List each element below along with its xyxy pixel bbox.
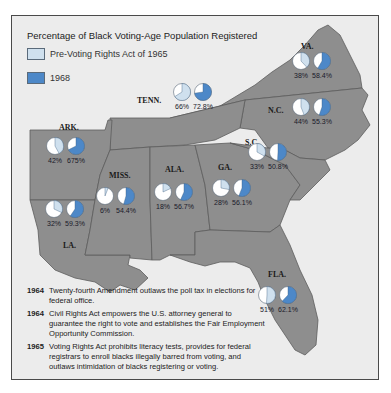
- pie-1968-label: 62.1%: [278, 306, 298, 313]
- events-timeline: 1964 Twenty-fourth Amendment outlaws the…: [27, 286, 267, 375]
- pie-pre-1965-label: 44%: [294, 118, 308, 125]
- event-item: 1964 Civil Rights Act empowers the U.S. …: [27, 309, 267, 339]
- pie-1968-label: 55.3%: [312, 118, 332, 125]
- event-year: 1964: [27, 286, 49, 306]
- event-item: 1964 Twenty-fourth Amendment outlaws the…: [27, 286, 267, 306]
- pie-1968-label: 58.4%: [312, 72, 332, 79]
- event-item: 1965 Voting Rights Act prohibits literac…: [27, 342, 267, 372]
- label-miss: MISS.: [109, 171, 131, 180]
- label-ga: GA.: [218, 163, 232, 172]
- pie-1968-label: 675%: [67, 157, 85, 164]
- pie-1968-label: 56.1%: [232, 199, 252, 206]
- label-la: LA.: [63, 241, 76, 250]
- pie-1968-label: 50.8%: [268, 163, 288, 170]
- label-tenn: TENN.: [137, 96, 161, 105]
- event-text: Twenty-fourth Amendment outlaws the poll…: [49, 286, 267, 306]
- pie-pre-1965-label: 28%: [214, 199, 228, 206]
- event-year: 1965: [27, 342, 49, 372]
- label-nc: N.C.: [268, 106, 284, 115]
- pie-pre-1965-label: 32%: [47, 220, 61, 227]
- label-fla: FLA.: [268, 270, 286, 279]
- pie-pre-1965-label: 42%: [48, 157, 62, 164]
- pie-1968-label: 56.7%: [174, 203, 194, 210]
- pie-pre-1965-label: 38%: [294, 72, 308, 79]
- label-ala: ALA.: [165, 165, 184, 174]
- label-va: VA.: [301, 42, 314, 51]
- event-text: Civil Rights Act empowers the U.S. attor…: [49, 309, 267, 339]
- pie-pre-1965-label: 6%: [100, 207, 110, 214]
- pie-1968-label: 54.4%: [116, 207, 136, 214]
- pie-pre-1965-label: 66%: [175, 103, 189, 110]
- pie-1968-label: 59.3%: [65, 220, 85, 227]
- pie-pre-1965-label: 33%: [250, 163, 264, 170]
- event-year: 1964: [27, 309, 49, 339]
- pie-1968-label: 72.8%: [193, 103, 213, 110]
- label-ark: ARK.: [59, 123, 79, 132]
- event-text: Voting Rights Act prohibits literacy tes…: [49, 342, 267, 372]
- pie-pre-1965-label: 18%: [156, 203, 170, 210]
